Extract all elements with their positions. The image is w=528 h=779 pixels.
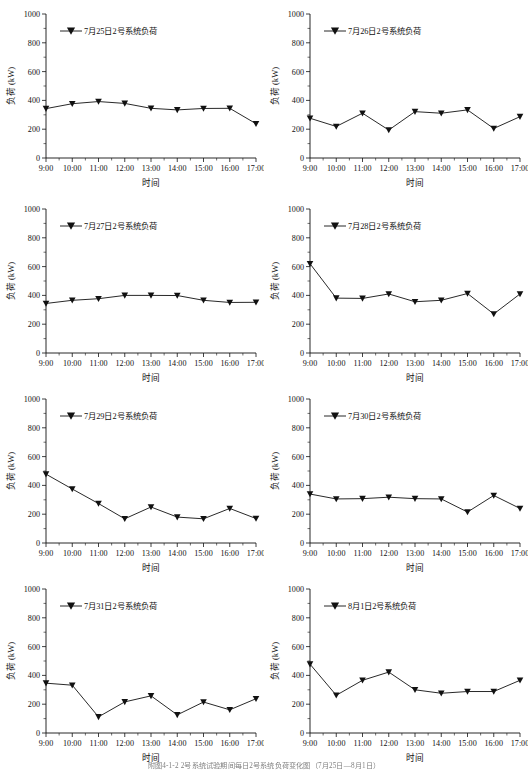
x-tick-label: 15:00 <box>194 739 212 748</box>
y-axis-title: 负荷 (kW) <box>5 452 16 490</box>
chart-panel: 020040060080010009:0010:0011:0012:0013:0… <box>0 385 264 575</box>
data-point-marker <box>121 516 128 522</box>
x-tick-label: 14:00 <box>168 549 186 558</box>
y-tick-label: 600 <box>292 263 304 272</box>
y-axis-title: 负荷 (kW) <box>269 262 280 300</box>
line-chart: 020040060080010009:0010:0011:0012:0013:0… <box>264 385 528 580</box>
x-axis-title: 时间 <box>406 372 424 383</box>
x-tick-label: 12:00 <box>116 549 134 558</box>
data-point-marker <box>359 677 366 683</box>
line-chart: 020040060080010009:0010:0011:0012:0013:0… <box>264 0 528 195</box>
x-axis-title: 时间 <box>406 562 424 573</box>
x-tick-label: 16:00 <box>221 549 239 558</box>
y-tick-label: 600 <box>292 453 304 462</box>
x-axis-title: 时间 <box>406 177 424 188</box>
x-tick-label: 13:00 <box>406 164 424 173</box>
y-tick-label: 1000 <box>24 585 40 594</box>
y-tick-label: 600 <box>28 263 40 272</box>
data-point-marker <box>333 692 340 698</box>
x-tick-label: 16:00 <box>221 359 239 368</box>
x-tick-label: 12:00 <box>116 359 134 368</box>
y-tick-label: 400 <box>292 96 304 105</box>
line-chart: 020040060080010009:0010:0011:0012:0013:0… <box>0 195 264 390</box>
x-tick-label: 15:00 <box>194 359 212 368</box>
data-point-marker <box>95 714 102 720</box>
x-tick-label: 12:00 <box>380 359 398 368</box>
x-tick-label: 17:00 <box>247 739 264 748</box>
x-tick-label: 16:00 <box>221 739 239 748</box>
x-axis-title: 时间 <box>142 372 160 383</box>
y-axis-title: 负荷 (kW) <box>5 642 16 680</box>
data-point-marker <box>490 311 497 317</box>
legend-label: 7月28日2号系统负荷 <box>348 221 421 231</box>
x-tick-label: 10:00 <box>63 359 81 368</box>
y-tick-label: 0 <box>36 539 40 548</box>
x-tick-label: 17:00 <box>247 359 264 368</box>
x-tick-label: 14:00 <box>432 739 450 748</box>
data-point-marker <box>148 504 155 510</box>
data-point-marker <box>253 696 260 702</box>
y-tick-label: 800 <box>28 614 40 623</box>
x-tick-label: 10:00 <box>327 739 345 748</box>
data-point-marker <box>464 509 471 515</box>
x-tick-label: 11:00 <box>89 739 107 748</box>
y-tick-label: 1000 <box>24 205 40 214</box>
x-tick-label: 9:00 <box>39 739 53 748</box>
data-point-marker <box>69 486 76 492</box>
data-point-marker <box>385 669 392 675</box>
x-tick-label: 10:00 <box>327 359 345 368</box>
data-point-marker <box>253 516 260 522</box>
x-tick-label: 14:00 <box>168 739 186 748</box>
data-point-marker <box>226 707 233 713</box>
y-tick-label: 800 <box>28 424 40 433</box>
data-point-marker <box>490 493 497 499</box>
x-tick-label: 9:00 <box>303 739 317 748</box>
chart-grid: 020040060080010009:0010:0011:0012:0013:0… <box>0 0 528 765</box>
data-point-marker <box>95 501 102 507</box>
x-tick-label: 16:00 <box>485 359 503 368</box>
series-line <box>46 683 256 717</box>
data-point-marker <box>490 126 497 132</box>
y-tick-label: 1000 <box>288 395 304 404</box>
chart-panel: 020040060080010009:0010:0011:0012:0013:0… <box>0 575 264 765</box>
chart-panel: 020040060080010009:0010:0011:0012:0013:0… <box>264 575 528 765</box>
x-tick-label: 15:00 <box>458 164 476 173</box>
y-tick-label: 400 <box>292 291 304 300</box>
y-tick-label: 0 <box>36 349 40 358</box>
y-tick-label: 400 <box>292 481 304 490</box>
y-tick-label: 600 <box>28 68 40 77</box>
x-tick-label: 11:00 <box>89 359 107 368</box>
x-tick-label: 10:00 <box>327 164 345 173</box>
data-point-marker <box>43 471 50 477</box>
x-tick-label: 10:00 <box>63 739 81 748</box>
x-tick-label: 12:00 <box>380 549 398 558</box>
data-point-marker <box>121 699 128 705</box>
x-tick-label: 11:00 <box>353 164 371 173</box>
y-tick-label: 400 <box>28 291 40 300</box>
data-point-marker <box>517 114 524 120</box>
series-line <box>46 102 256 124</box>
x-tick-label: 16:00 <box>485 549 503 558</box>
legend-label: 8月1日2号系统负荷 <box>348 601 416 611</box>
data-point-marker <box>333 124 340 130</box>
data-point-marker <box>43 301 50 307</box>
y-tick-label: 1000 <box>288 10 304 19</box>
chart-panel: 020040060080010009:0010:0011:0012:0013:0… <box>264 195 528 385</box>
x-tick-label: 14:00 <box>432 164 450 173</box>
y-tick-label: 0 <box>300 539 304 548</box>
line-chart: 020040060080010009:0010:0011:0012:0013:0… <box>264 195 528 390</box>
x-tick-label: 17:00 <box>511 359 528 368</box>
y-tick-label: 200 <box>292 510 304 519</box>
legend-label: 7月31日2号系统负荷 <box>84 601 157 611</box>
y-tick-label: 0 <box>300 154 304 163</box>
x-tick-label: 13:00 <box>142 549 160 558</box>
legend-label: 7月30日2号系统负荷 <box>348 411 421 421</box>
data-point-marker <box>517 291 524 297</box>
y-tick-label: 200 <box>292 700 304 709</box>
x-tick-label: 11:00 <box>353 549 371 558</box>
line-chart: 020040060080010009:0010:0011:0012:0013:0… <box>0 385 264 580</box>
y-tick-label: 800 <box>292 234 304 243</box>
y-axis-title: 负荷 (kW) <box>269 642 280 680</box>
y-tick-label: 800 <box>292 424 304 433</box>
x-tick-label: 17:00 <box>247 164 264 173</box>
